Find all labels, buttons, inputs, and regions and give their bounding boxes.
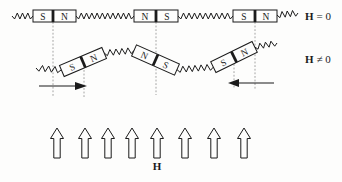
magnet-divider bbox=[52, 10, 55, 22]
pole-label: S bbox=[164, 12, 169, 22]
field-up-arrow-icon bbox=[179, 128, 192, 158]
magnet-divider bbox=[155, 10, 158, 22]
arrow-head-left-icon bbox=[228, 79, 239, 87]
pole-label: S bbox=[40, 12, 45, 22]
spring-top-4 bbox=[277, 11, 298, 18]
spring-mid-4 bbox=[255, 41, 277, 49]
arrow-head-right-icon bbox=[75, 82, 87, 90]
bar-magnet-top-3: S N bbox=[233, 10, 277, 22]
field-up-arrow-icon bbox=[238, 128, 251, 158]
field-equation-h-nonzero: H≠ 0 bbox=[305, 53, 331, 65]
bar-magnet-mid-2: N S bbox=[132, 45, 180, 75]
bar-magnet-top-2: N S bbox=[134, 10, 178, 22]
displacement-arrow-right bbox=[39, 82, 87, 90]
bar-magnet-mid-1: S N bbox=[59, 47, 106, 76]
field-up-arrow-icon bbox=[126, 128, 139, 158]
field-up-arrow-icon bbox=[102, 128, 115, 158]
spring-mid-2 bbox=[104, 48, 134, 56]
row-h-nonzero: S N N S S N H≠ 0 bbox=[36, 41, 331, 76]
pole-label: S bbox=[241, 12, 246, 22]
pole-label: N bbox=[61, 12, 68, 22]
spring-mid-3 bbox=[177, 65, 213, 73]
magnetostriction-figure: S N N S S N H= 0 S N bbox=[0, 0, 342, 182]
displacement-arrow-left bbox=[228, 79, 274, 87]
field-equation-h-zero: H= 0 bbox=[305, 10, 332, 22]
field-up-arrow-icon bbox=[79, 128, 92, 158]
spring-top-1 bbox=[12, 13, 33, 19]
field-up-arrow-icon bbox=[208, 128, 221, 158]
applied-field-label: H bbox=[153, 160, 162, 172]
row-h-zero: S N N S S N H= 0 bbox=[12, 10, 332, 23]
spring-mid-1 bbox=[36, 66, 61, 73]
applied-field-arrows bbox=[51, 128, 251, 158]
pole-label: N bbox=[263, 12, 270, 22]
magnet-divider bbox=[254, 10, 257, 22]
spring-top-2 bbox=[76, 13, 134, 19]
field-up-arrow-icon bbox=[151, 128, 164, 158]
bar-magnet-top-1: S N bbox=[33, 10, 76, 22]
spring-top-3 bbox=[178, 13, 233, 19]
field-up-arrow-icon bbox=[51, 128, 64, 158]
pole-label: N bbox=[142, 12, 149, 22]
